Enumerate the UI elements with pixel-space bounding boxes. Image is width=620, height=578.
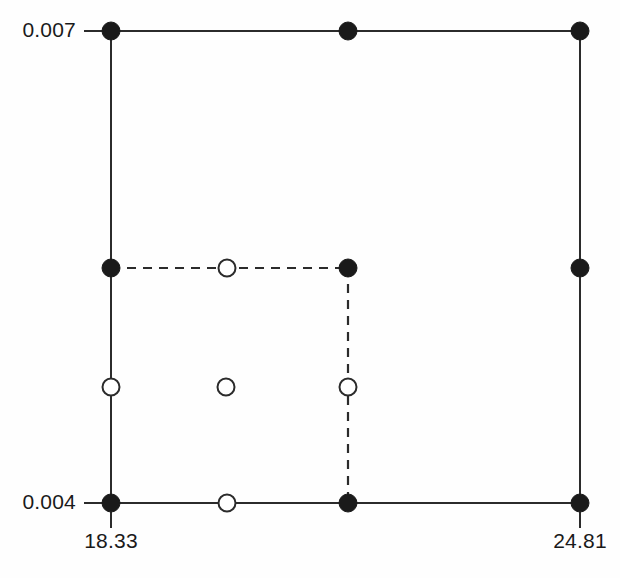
tick-mark-group (84, 31, 580, 528)
node-top-mid (339, 22, 357, 40)
x-axis-label-0: 18.33 (51, 529, 171, 553)
node-mid-right (571, 259, 589, 277)
node-bottom-right (571, 494, 589, 512)
open-node-bottom-center (219, 495, 236, 512)
x-axis-label-1: 24.81 (520, 529, 620, 553)
open-node-upper-center (219, 260, 236, 277)
open-node-left-middle (103, 379, 120, 396)
node-top-right (571, 22, 589, 40)
node-mid-center (339, 259, 357, 277)
y-axis-label-1: 0.004 (0, 490, 76, 514)
y-axis-label-0: 0.007 (0, 18, 76, 42)
open-marker-group (103, 260, 357, 512)
open-node-right-middle (340, 379, 357, 396)
design-plot-figure: 0.0070.00418.3324.81 (0, 0, 620, 578)
open-node-center-middle (218, 379, 235, 396)
node-bottom-left (102, 494, 120, 512)
design-plot-canvas (0, 0, 620, 578)
node-bottom-mid (339, 494, 357, 512)
node-top-left (102, 22, 120, 40)
node-mid-left (102, 259, 120, 277)
